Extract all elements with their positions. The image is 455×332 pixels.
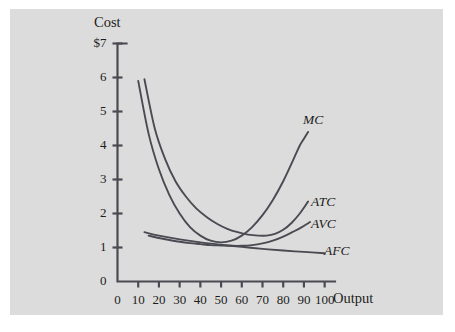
- y-tick-label: 4: [79, 137, 107, 153]
- curve-label-atc: ATC: [311, 194, 335, 210]
- x-axis-title: Output: [333, 290, 373, 307]
- y-tick-label: 1: [79, 239, 107, 255]
- curve-label-afc: AFC: [324, 243, 350, 259]
- curve-afc: [144, 232, 324, 253]
- y-tick-label: $7: [79, 35, 107, 51]
- chart-plot-area: [0, 0, 455, 332]
- y-tick-label: 0: [79, 273, 107, 289]
- y-tick-label: 5: [79, 103, 107, 119]
- y-tick-label: 6: [79, 69, 107, 85]
- cost-curves-figure: Cost Output 0123456$7 010203040506070809…: [0, 0, 455, 332]
- curves-group: [138, 79, 324, 253]
- x-tick-label: 100: [312, 292, 338, 308]
- y-tick-label: 3: [79, 171, 107, 187]
- curve-label-avc: AVC: [311, 216, 336, 232]
- y-tick-label: 2: [79, 205, 107, 221]
- curve-mc: [138, 81, 308, 243]
- y-axis-title: Cost: [94, 14, 121, 31]
- curve-atc: [144, 79, 308, 236]
- curve-label-mc: MC: [303, 112, 323, 128]
